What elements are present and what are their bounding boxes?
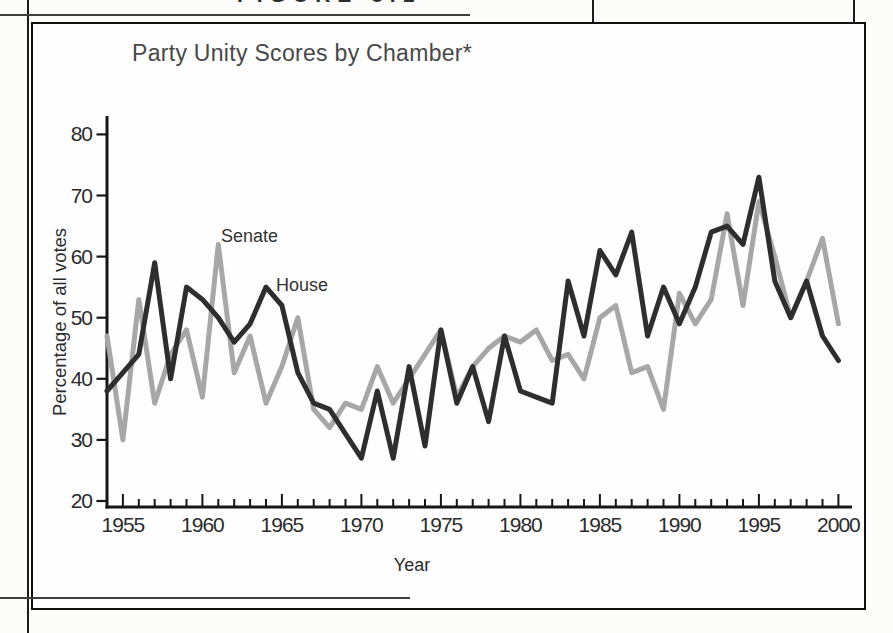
party-unity-chart: 2030405060708019551960196519701975198019… — [0, 0, 893, 633]
y-tick-label: 40 — [71, 367, 93, 390]
y-tick-label: 60 — [71, 245, 93, 268]
x-tick-label: 1955 — [102, 513, 145, 536]
x-tick-label: 1960 — [181, 513, 224, 536]
annotation-senate: Senate — [221, 226, 278, 246]
bottom-divider-line — [0, 597, 410, 599]
y-tick-label: 70 — [71, 184, 93, 207]
x-tick-label: 1975 — [420, 513, 463, 536]
series-line-senate — [107, 202, 838, 440]
x-axis-title: Year — [394, 555, 430, 575]
x-tick-label: 1980 — [499, 513, 542, 536]
y-tick-label: 30 — [71, 428, 93, 451]
x-tick-label: 1990 — [658, 513, 701, 536]
y-tick-label: 80 — [71, 122, 93, 145]
x-tick-label: 1965 — [261, 513, 304, 536]
annotation-house: House — [276, 275, 328, 295]
x-tick-label: 1995 — [738, 513, 781, 536]
x-tick-label: 2000 — [817, 513, 860, 536]
x-tick-label: 1970 — [340, 513, 383, 536]
y-tick-label: 50 — [71, 306, 93, 329]
y-tick-label: 20 — [71, 489, 93, 512]
x-tick-label: 1985 — [579, 513, 622, 536]
y-axis-title: Percentage of all votes — [49, 228, 70, 416]
